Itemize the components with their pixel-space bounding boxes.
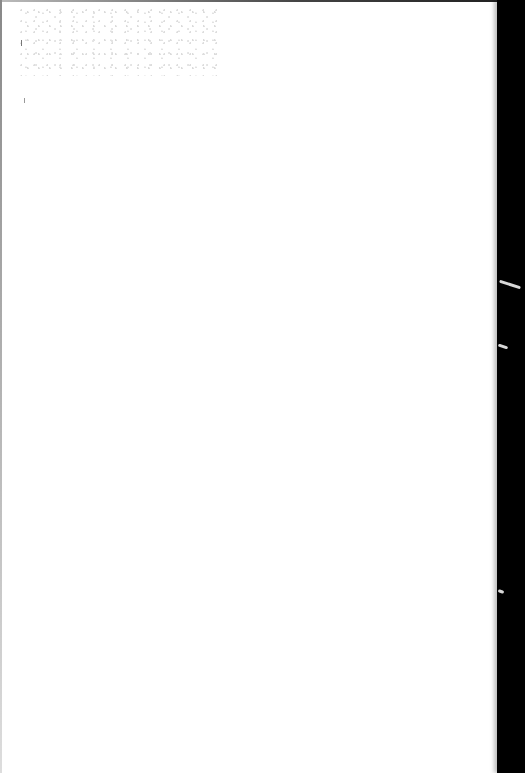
blank-scanned-page — [0, 0, 497, 773]
scan-artifact-mark — [24, 98, 25, 103]
page-top-edge — [0, 0, 497, 2]
scan-border-right — [497, 0, 525, 773]
scan-artifact-mark — [21, 40, 22, 46]
page-left-edge — [0, 0, 2, 773]
scan-speckle-noise — [20, 8, 220, 76]
